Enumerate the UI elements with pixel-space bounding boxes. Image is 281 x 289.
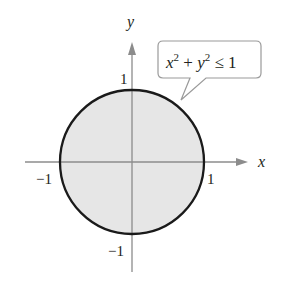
y-tick-1: 1 [120,71,128,87]
x-axis-arrow-icon [236,158,248,166]
x-axis-label: x [257,153,265,170]
y-axis-arrow-icon [128,42,136,55]
unit-disk-plot: x y −1 1 1 −1 x2 + y2 ≤ 1 [0,0,281,289]
y-tick-neg1: −1 [108,243,124,259]
y-axis-label: y [125,13,135,31]
inequality-callout: x2 + y2 ≤ 1 [158,41,261,100]
chart-canvas: x y −1 1 1 −1 x2 + y2 ≤ 1 [0,0,281,289]
x-tick-neg1: −1 [36,171,52,187]
x-tick-1: 1 [207,171,215,187]
